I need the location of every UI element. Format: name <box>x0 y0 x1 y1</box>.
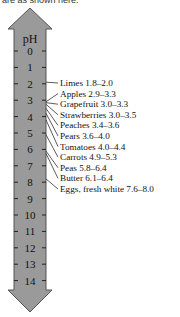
tick-label: 4 <box>27 111 33 123</box>
tick-label: 7 <box>27 160 33 172</box>
item-label: Tomatoes 4.0–4.4 <box>60 142 126 152</box>
item-label: Limes 1.8–2.0 <box>60 78 113 88</box>
item-label: Eggs, fresh white 7.6–8.0 <box>60 184 154 194</box>
tick-label: 9 <box>27 193 33 205</box>
tick-label: 13 <box>25 258 37 270</box>
leader-line <box>46 104 58 115</box>
item-label: Peaches 3.4–3.6 <box>60 120 120 130</box>
ph-scale-title: pH <box>23 32 38 46</box>
tick-label: 2 <box>27 78 33 90</box>
tick-label: 14 <box>25 275 37 287</box>
tick-label: 12 <box>25 242 36 254</box>
item-label: Strawberries 3.0–3.5 <box>60 110 137 120</box>
leader-line <box>46 82 58 83</box>
tick-label: 1 <box>27 61 33 73</box>
tick-label: 5 <box>27 127 33 139</box>
tick-label: 0 <box>27 45 33 57</box>
tick-label: 11 <box>25 225 36 237</box>
tick-label: 10 <box>25 209 37 221</box>
item-label: Pears 3.6–4.0 <box>60 131 110 141</box>
leader-line <box>46 103 58 105</box>
ph-scale-diagram: pH01234567891011121314Limes 1.8–2.0Apple… <box>0 0 180 317</box>
tick-label: 6 <box>27 143 33 155</box>
item-label: Apples 2.9–3.3 <box>60 89 116 99</box>
item-label: Peas 5.8–6.4 <box>60 163 107 173</box>
tick-label: 8 <box>27 176 33 188</box>
item-label: Grapefruit 3.0–3.3 <box>60 99 129 109</box>
leader-line <box>46 94 58 102</box>
tick-label: 3 <box>27 94 33 106</box>
item-label: Butter 6.1–6.4 <box>60 173 113 183</box>
leader-line <box>46 179 58 189</box>
item-label: Carrots 4.9–5.3 <box>60 152 117 162</box>
